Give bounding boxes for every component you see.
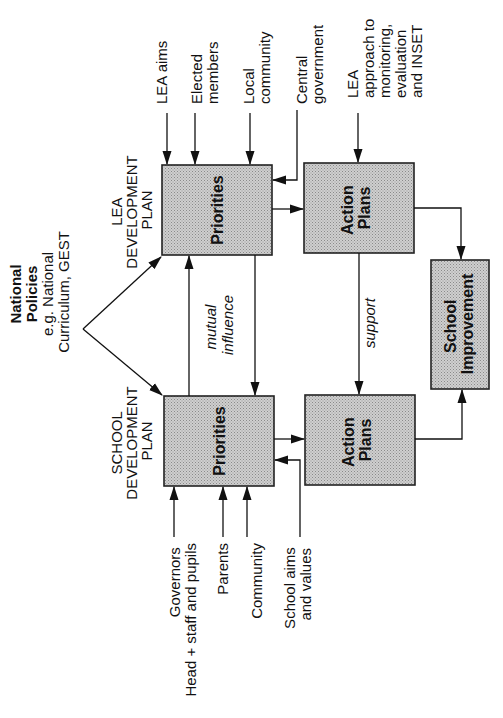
input-parents: Parents bbox=[214, 543, 231, 595]
lea-action-plans-box: Action Plans bbox=[304, 163, 414, 253]
school-action-plans-line-1: Action bbox=[340, 417, 357, 467]
arrow-school-action-plans-to-improvement bbox=[415, 390, 462, 439]
development-plan-diagram: Priorities Action Plans Priorities Actio… bbox=[0, 0, 503, 718]
lea-action-plans-line-2: Plans bbox=[356, 187, 373, 230]
school-priorities-box: Priorities bbox=[164, 396, 274, 486]
national-policies-title-2: Policies bbox=[23, 266, 40, 323]
school-improvement-box: School Improvement bbox=[431, 260, 489, 389]
input-elected-members: Elected members bbox=[188, 41, 221, 104]
input-governors-head-staff-pupils: Governors Head + staff and pupils bbox=[166, 543, 199, 697]
school-improvement-line-2: Improvement bbox=[459, 273, 476, 374]
school-action-plans-box: Action Plans bbox=[305, 395, 415, 485]
national-policies-arrows bbox=[83, 257, 162, 395]
national-policies-title-1: National bbox=[7, 264, 24, 323]
school-improvement-line-1: School bbox=[442, 300, 459, 353]
support-label: support bbox=[361, 297, 378, 348]
input-lea-approach: LEA approach to monitoring, evaluation a… bbox=[344, 15, 425, 98]
school-action-plans-line-2: Plans bbox=[357, 419, 374, 462]
svg-text:National Policies: National Policies e.g. National Curricul… bbox=[7, 231, 72, 353]
lea-action-plans-line-1: Action bbox=[339, 185, 356, 235]
input-local-community: Local community bbox=[240, 31, 273, 104]
input-central-government: Central government bbox=[293, 24, 326, 104]
school-inputs: Governors Head + staff and pupils Parent… bbox=[166, 460, 314, 697]
lea-priorities-label: Priorities bbox=[209, 175, 226, 244]
input-community: Community bbox=[248, 543, 265, 619]
national-policies-subtitle-1: e.g. National bbox=[39, 252, 56, 336]
arrow-central-government bbox=[273, 110, 297, 180]
support-link: support bbox=[359, 253, 378, 394]
arrow-lea-action-plans-to-improvement bbox=[414, 208, 461, 259]
input-school-aims-values: School aims and values bbox=[281, 543, 314, 629]
lea-development-plan-label: LEA DEVELOPMENT PLAN bbox=[108, 151, 155, 268]
mutual-influence-label: mutual influence bbox=[202, 295, 236, 355]
input-lea-aims: LEA aims bbox=[153, 41, 170, 104]
mutual-influence-link: mutual influence bbox=[189, 255, 255, 396]
lea-inputs: LEA aims Elected members Local community… bbox=[153, 15, 425, 180]
svg-text:Action Plans: Action Plans bbox=[339, 181, 373, 235]
svg-text:Action Plans: Action Plans bbox=[340, 413, 374, 467]
lea-priorities-box: Priorities bbox=[162, 165, 272, 255]
national-policies-label: National Policies e.g. National Curricul… bbox=[7, 231, 72, 353]
arrow-to-lea-priorities bbox=[83, 257, 161, 329]
school-development-plan-label: SCHOOL DEVELOPMENT PLAN bbox=[108, 382, 155, 499]
school-priorities-label: Priorities bbox=[211, 406, 228, 475]
arrow-school-aims bbox=[275, 460, 300, 537]
national-policies-subtitle-2: Curriculum, GEST bbox=[55, 231, 72, 353]
